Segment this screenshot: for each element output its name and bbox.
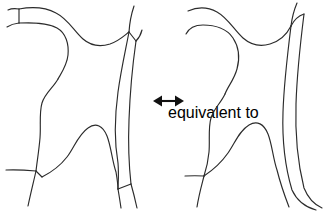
right-curve-lower-left-tail <box>197 176 204 207</box>
right-curve-right-body-diagonal <box>291 3 297 26</box>
arrow-head-left <box>153 96 162 107</box>
bridge-bottom-left <box>36 171 42 177</box>
left-curve-right-body-diagonal <box>115 32 129 189</box>
figure-root: Curve network equivalence <box>0 0 331 213</box>
figure-canvas: equivalent to <box>0 0 331 213</box>
right-curve-upper-lobe <box>186 25 239 94</box>
left-curve-upper-lobe-underside <box>19 23 68 79</box>
left-curve-right-outer-diagonal <box>129 41 136 184</box>
left-curve-bottom-right-tail-inner <box>118 189 121 208</box>
left-curve-upper-ridge <box>19 8 129 46</box>
left-curve-central-saddle <box>42 125 118 189</box>
right-curve-right-outer-diagonal <box>296 14 322 208</box>
left-curve-bottom-right-tail-outer <box>131 184 137 208</box>
right-curve-upper-ridge <box>188 8 291 45</box>
left-curve-upper-right-stub <box>136 30 142 41</box>
bridge-bottom-right <box>118 184 131 189</box>
left-curve-lower-left-tail <box>28 171 36 206</box>
left-curve-lower-left-stub <box>6 170 36 171</box>
left-diagram <box>6 6 142 208</box>
left-curve-left-body-spine <box>36 79 58 171</box>
left-curve-top-left-upper-stub <box>8 9 19 10</box>
bridge-top-right <box>129 32 136 41</box>
left-curve-upper-left-tail <box>7 23 19 27</box>
right-curve-central-saddle <box>204 123 289 207</box>
left-curve-upper-right-branch <box>129 6 134 32</box>
